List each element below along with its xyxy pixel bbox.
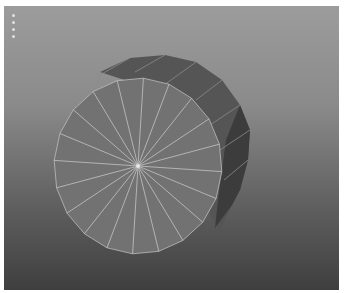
cylinder-mesh[interactable] xyxy=(0,0,344,293)
cap-center-vertex xyxy=(136,164,140,168)
